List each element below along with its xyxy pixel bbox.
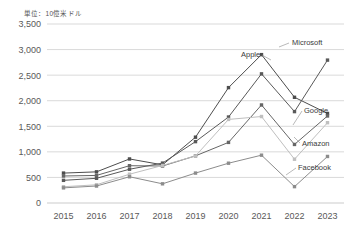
data-point-microsoft-2021: [260, 72, 263, 75]
data-point-google-2016: [95, 174, 98, 177]
chart-plot-area: 05001,0001,5002,0002,5003,0003,500201520…: [0, 0, 351, 232]
x-axis-tick-label: 2021: [251, 211, 271, 221]
y-axis-tick-label: 2,500: [18, 71, 41, 81]
series-label-amazon: Amazon: [302, 139, 330, 148]
data-point-facebook-2015: [62, 186, 65, 189]
x-axis-tick-label: 2018: [152, 211, 172, 221]
data-point-facebook-2019: [194, 171, 197, 174]
series-line-microsoft: [64, 60, 328, 180]
data-point-microsoft-2023: [326, 58, 329, 61]
data-point-microsoft-2022: [293, 110, 296, 113]
x-axis-tick-label: 2015: [53, 211, 73, 221]
data-point-facebook-2017: [128, 175, 131, 178]
data-point-facebook-2016: [95, 184, 98, 187]
data-point-microsoft-2017: [128, 168, 131, 171]
data-point-google-2017: [128, 164, 131, 167]
y-axis-tick-label: 2,000: [18, 96, 41, 106]
data-point-google-2020: [227, 141, 230, 144]
annotation-leader-microsoft: [279, 43, 289, 47]
line-chart: 単位：10億米ドル 05001,0001,5002,0002,5003,0003…: [0, 0, 351, 232]
data-point-amazon-2023: [326, 121, 329, 124]
x-axis-tick-label: 2020: [218, 211, 238, 221]
y-axis-tick-label: 0: [36, 198, 41, 208]
data-point-apple-2022: [293, 96, 296, 99]
data-point-google-2021: [260, 103, 263, 106]
data-point-facebook-2021: [260, 153, 263, 156]
data-point-amazon-2018: [161, 164, 164, 167]
y-axis-tick-label: 3,000: [18, 45, 41, 55]
data-point-google-2015: [62, 174, 65, 177]
data-point-facebook-2020: [227, 162, 230, 165]
data-point-amazon-2021: [260, 115, 263, 118]
data-point-apple-2021: [260, 53, 263, 56]
y-axis-tick-label: 500: [26, 173, 41, 183]
data-point-microsoft-2019: [194, 140, 197, 143]
data-point-facebook-2022: [293, 185, 296, 188]
data-point-apple-2017: [128, 157, 131, 160]
data-point-amazon-2022: [293, 158, 296, 161]
annotation-leader-facebook: [286, 168, 296, 175]
data-point-microsoft-2015: [62, 179, 65, 182]
x-axis-tick-label: 2023: [317, 211, 337, 221]
data-point-apple-2015: [62, 171, 65, 174]
series-label-apple: Apple: [241, 50, 260, 59]
x-axis-tick-label: 2016: [86, 211, 106, 221]
series-label-facebook: Facebook: [298, 163, 331, 172]
data-point-facebook-2018: [161, 182, 164, 185]
series-label-google: Google: [304, 106, 328, 115]
y-axis-tick-label: 3,500: [18, 19, 41, 29]
series-label-microsoft: Microsoft: [292, 38, 323, 47]
data-point-apple-2020: [227, 86, 230, 89]
x-axis-tick-label: 2019: [185, 211, 205, 221]
data-point-amazon-2019: [194, 154, 197, 157]
data-point-google-2022: [293, 143, 296, 146]
x-axis-tick-label: 2017: [119, 211, 139, 221]
data-point-apple-2016: [95, 170, 98, 173]
data-point-amazon-2020: [227, 118, 230, 121]
y-axis-tick-label: 1,500: [18, 122, 41, 132]
x-axis-tick-label: 2022: [284, 211, 304, 221]
data-point-apple-2019: [194, 135, 197, 138]
data-point-facebook-2023: [326, 155, 329, 158]
y-axis-tick-label: 1,000: [18, 147, 41, 157]
